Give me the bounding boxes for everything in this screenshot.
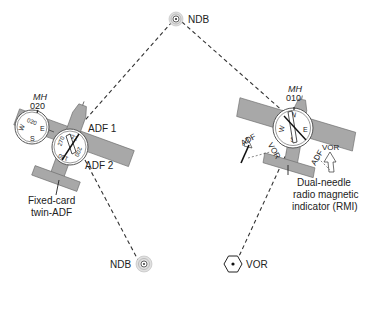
compass-east: E xyxy=(40,125,45,132)
rmi-east: E xyxy=(303,126,308,133)
bearing-line-adf2 xyxy=(85,160,138,260)
adf2-label: ADF 2 xyxy=(85,160,114,171)
vor-double-needle-icon xyxy=(324,152,336,172)
adf1-label: ADF 1 xyxy=(88,123,117,134)
right-caption-line1: Dual-needle xyxy=(297,177,351,188)
left-caption-line1: Fixed-card xyxy=(28,195,75,206)
ndb-top-label: NDB xyxy=(188,14,209,25)
ndb-station-top: NDB xyxy=(169,12,209,26)
adf-example-needle xyxy=(241,145,249,163)
right-caption-line3: indicator (RMI) xyxy=(292,201,358,212)
magnetic-compass: 020 E S W xyxy=(15,110,54,144)
right-aircraft: N E W S MH 010 ADF VOR VOR ADF xyxy=(229,84,361,212)
left-aircraft: 020 E S W MH 020 270 021 200 180 ADF 1 A… xyxy=(0,82,144,218)
left-mh-value: 020 xyxy=(30,101,45,111)
navigation-diagram: NDB NDB VOR 020 E S W xyxy=(0,0,365,309)
rmi-vor-right-label: VOR xyxy=(322,143,340,152)
vor-bottom-label: VOR xyxy=(246,259,268,270)
right-mh-value: 010 xyxy=(286,93,301,103)
ndb-station-bottom: NDB xyxy=(110,256,152,272)
vor-station-bottom: VOR xyxy=(224,256,268,272)
fixed-card-adf-dial: 270 021 200 180 xyxy=(52,129,88,165)
right-caption-line2: radio magnetic xyxy=(293,189,359,200)
bearing-line-adf1 xyxy=(78,22,172,128)
rmi-dial: N E W S xyxy=(273,107,313,148)
ndb-bottom-label: NDB xyxy=(110,259,131,270)
compass-south: S xyxy=(30,135,35,142)
bearing-line-rmi-ndb xyxy=(182,22,285,113)
left-caption-line2: twin-ADF xyxy=(31,207,72,218)
